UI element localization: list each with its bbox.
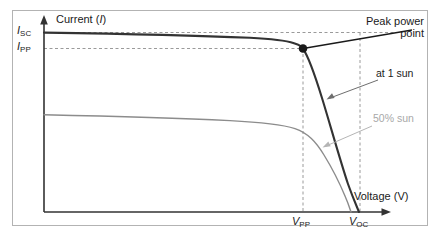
half-sun-arrow: [323, 126, 373, 147]
at-1-sun-arrow: [327, 80, 379, 99]
voc-subscript: OC: [356, 220, 368, 229]
isc-subscript: SC: [20, 29, 31, 38]
curve-50-percent-sun: [44, 115, 351, 212]
x-axis-title-text: Voltage: [354, 190, 391, 202]
half-sun-label: 50% sun: [373, 113, 414, 124]
x-axis-title: Voltage (V): [354, 191, 408, 203]
iv-curve-figure: ISC IPP Current (I) Voltage (V) VPP VOC …: [0, 0, 443, 241]
peak-power-label-line2: point: [362, 28, 424, 40]
y-tick-label-isc: ISC: [17, 25, 31, 38]
x-axis-title-symbol: V: [397, 190, 404, 202]
x-tick-label-voc: VOC: [349, 216, 368, 229]
peak-power-point-label: Peak power point: [362, 16, 424, 39]
curve-at-1-sun: [44, 33, 359, 212]
y-axis-arrow: [40, 15, 48, 25]
ipp-subscript: PP: [20, 45, 31, 54]
y-tick-label-ipp: IPP: [17, 41, 31, 54]
y-axis-title: Current (I): [56, 14, 106, 26]
peak-power-label-line1: Peak power: [362, 16, 424, 28]
x-tick-label-vpp: VPP: [292, 216, 310, 229]
x-axis-arrow: [382, 208, 392, 216]
vpp-subscript: PP: [299, 220, 310, 229]
at-1-sun-label: at 1 sun: [376, 68, 413, 79]
y-axis-title-text: Current: [56, 13, 93, 25]
peak-power-point-marker: [299, 44, 308, 53]
y-axis-title-symbol: I: [99, 13, 102, 25]
